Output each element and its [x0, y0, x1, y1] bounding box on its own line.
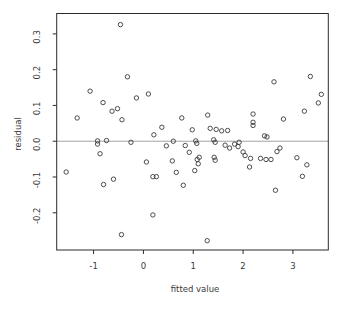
data-point — [118, 22, 122, 26]
data-point — [64, 170, 68, 174]
data-point — [183, 143, 187, 147]
data-point — [104, 138, 108, 142]
data-point — [181, 183, 185, 187]
data-point — [180, 116, 184, 120]
data-point — [101, 100, 105, 104]
data-point — [174, 170, 178, 174]
data-point — [281, 117, 285, 121]
x-tick-label: 3 — [290, 261, 295, 271]
data-point — [223, 143, 227, 147]
data-point — [251, 112, 255, 116]
data-point — [248, 156, 252, 160]
data-point — [134, 96, 138, 100]
data-point — [101, 182, 105, 186]
y-tick-label: -0.2 — [32, 207, 42, 224]
y-tick-label: -0.1 — [32, 172, 42, 189]
data-point — [120, 118, 124, 122]
data-point — [144, 160, 148, 164]
data-point — [243, 153, 247, 157]
figure: -10123-0.2-0.10.00.10.20.3 fitted value … — [0, 0, 347, 309]
data-point — [110, 109, 114, 113]
data-point — [98, 152, 102, 156]
data-point — [119, 232, 123, 236]
data-point — [264, 157, 268, 161]
data-point — [196, 162, 200, 166]
data-point — [300, 174, 304, 178]
x-tick-label: 1 — [191, 261, 196, 271]
data-point — [146, 92, 150, 96]
data-point — [95, 142, 99, 146]
data-point — [125, 75, 129, 79]
y-axis-title: residual — [13, 117, 23, 151]
data-point — [115, 106, 119, 110]
data-point — [319, 92, 323, 96]
data-point — [212, 155, 216, 159]
x-tick-label: -1 — [89, 261, 97, 271]
data-point — [193, 168, 197, 172]
data-point — [272, 80, 276, 84]
data-point — [258, 156, 262, 160]
data-point — [111, 177, 115, 181]
data-point — [88, 89, 92, 93]
data-point — [214, 127, 218, 131]
data-point — [160, 125, 164, 129]
y-tick-label: 0.3 — [32, 30, 42, 44]
data-point — [305, 163, 309, 167]
data-point — [247, 165, 251, 169]
data-point — [237, 140, 241, 144]
data-point — [152, 133, 156, 137]
data-point — [308, 74, 312, 78]
residual-plot: -10123-0.2-0.10.00.10.20.3 fitted value … — [0, 0, 347, 309]
data-point — [236, 144, 240, 148]
plot-dynamic-layer: -10123-0.2-0.10.00.10.20.3 — [32, 14, 328, 272]
data-point — [151, 213, 155, 217]
data-point — [190, 128, 194, 132]
data-point — [269, 157, 273, 161]
y-tick-label: 0.0 — [32, 137, 42, 151]
x-axis-title: fitted value — [171, 284, 220, 294]
y-tick-label: 0.2 — [32, 66, 42, 80]
data-point — [164, 144, 168, 148]
data-point — [205, 113, 209, 117]
x-tick-label: 2 — [240, 261, 245, 271]
data-point — [75, 116, 79, 120]
data-point — [205, 238, 209, 242]
data-point — [227, 146, 231, 150]
data-point — [302, 109, 306, 113]
data-point — [219, 129, 223, 133]
data-point — [129, 140, 133, 144]
data-point — [295, 155, 299, 159]
data-point — [187, 150, 191, 154]
data-point — [225, 128, 229, 132]
data-point — [213, 158, 217, 162]
y-tick-label: 0.1 — [32, 102, 42, 116]
x-tick-label: 0 — [141, 261, 146, 271]
data-point — [251, 123, 255, 127]
data-point — [208, 126, 212, 130]
data-point — [170, 159, 174, 163]
data-point — [316, 101, 320, 105]
data-point — [278, 146, 282, 150]
data-point — [273, 188, 277, 192]
